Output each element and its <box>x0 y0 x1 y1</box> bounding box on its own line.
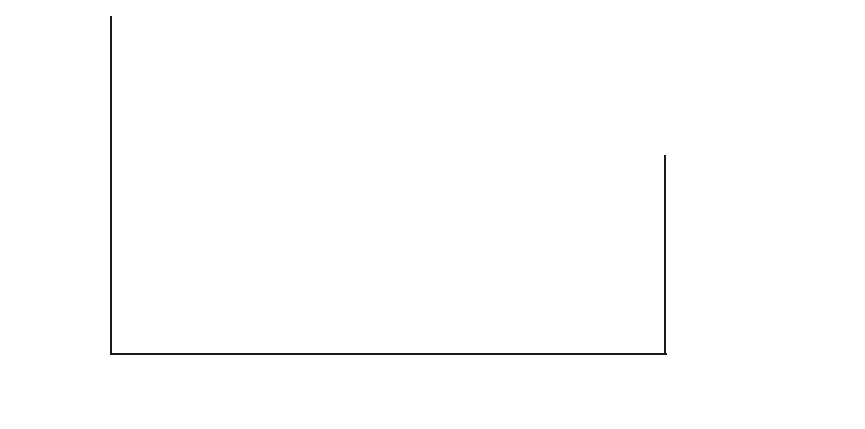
stacked-area-plot <box>111 16 665 354</box>
chart-figure <box>0 0 865 429</box>
area-series-group <box>111 16 665 354</box>
